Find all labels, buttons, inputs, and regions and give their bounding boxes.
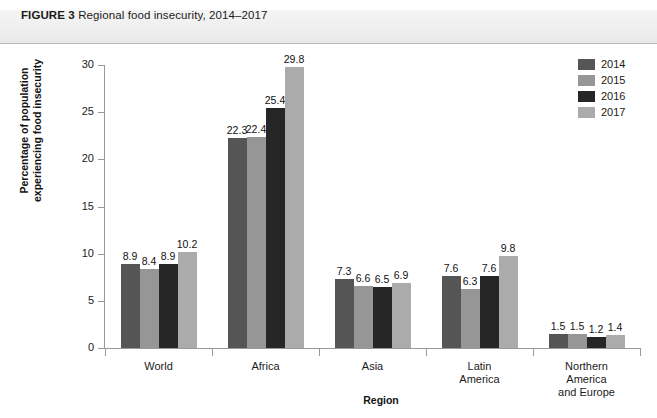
legend-item: 2017 <box>578 105 625 120</box>
x-category-label-line: Africa <box>206 360 326 373</box>
y-axis-title-line: experiencing food insecurity <box>30 31 43 231</box>
bar <box>549 334 568 348</box>
bar <box>392 283 411 348</box>
bar <box>140 269 159 348</box>
x-tick-mark <box>533 349 534 356</box>
y-tick-label: 5 <box>68 294 94 306</box>
x-tick-mark <box>105 349 106 356</box>
bar <box>159 264 178 348</box>
legend-label: 2017 <box>601 107 625 118</box>
legend-swatch <box>578 75 595 86</box>
bar <box>266 108 285 348</box>
x-tick-mark <box>212 349 213 356</box>
x-category-label-line: Northern <box>527 360 647 373</box>
legend-item: 2016 <box>578 89 625 104</box>
bar-value-label: 7.6 <box>436 262 466 274</box>
legend-swatch <box>578 91 595 102</box>
bar <box>480 276 499 348</box>
y-tick-mark <box>98 112 104 113</box>
y-tick-label: 25 <box>68 105 94 117</box>
bar <box>354 286 373 348</box>
x-category-label-line: America <box>420 373 540 386</box>
bar <box>442 276 461 348</box>
bar-value-label: 1.4 <box>600 321 630 333</box>
bar <box>121 264 140 348</box>
y-axis-title: Percentage of populationexperiencing foo… <box>18 31 43 231</box>
x-category-label-line: World <box>99 360 219 373</box>
y-tick-label: 0 <box>68 341 94 353</box>
bar-value-label: 9.8 <box>493 242 523 254</box>
x-tick-mark <box>426 349 427 356</box>
legend-swatch <box>578 59 595 70</box>
plot-area: 8.98.48.910.222.322.425.429.87.36.66.56.… <box>105 65 640 348</box>
bar <box>461 289 480 348</box>
y-tick-label: 15 <box>68 200 94 212</box>
y-tick-mark <box>98 159 104 160</box>
legend-item: 2015 <box>578 73 625 88</box>
legend-label: 2016 <box>601 91 625 102</box>
x-tick-mark <box>640 349 641 356</box>
legend-item: 2014 <box>578 57 625 72</box>
bar <box>247 137 266 348</box>
bar <box>568 334 587 348</box>
bar <box>335 279 354 348</box>
bar <box>587 337 606 348</box>
bar <box>373 287 392 348</box>
legend-label: 2014 <box>601 59 625 70</box>
x-category-label-line: Latin <box>420 360 540 373</box>
x-tick-mark <box>319 349 320 356</box>
bar-value-label: 29.8 <box>279 53 309 65</box>
y-tick-label: 30 <box>68 58 94 70</box>
y-tick-label: 10 <box>68 247 94 259</box>
legend-swatch <box>578 107 595 118</box>
bar-chart: 051015202530 Percentage of populationexp… <box>0 0 657 418</box>
bar <box>228 138 247 348</box>
x-category-label: LatinAmerica <box>420 360 540 386</box>
x-axis-title: Region <box>0 394 657 406</box>
x-category-label-line: America <box>527 373 647 386</box>
y-tick-mark <box>98 254 104 255</box>
bar <box>606 335 625 348</box>
bar-value-label: 10.2 <box>172 238 202 250</box>
chart-legend: 2014201520162017 <box>578 57 625 121</box>
x-category-label-line: Asia <box>313 360 433 373</box>
y-tick-mark <box>98 348 104 349</box>
x-category-label: World <box>99 360 219 373</box>
x-category-label: Asia <box>313 360 433 373</box>
bar <box>499 256 518 348</box>
bar-value-label: 6.9 <box>386 269 416 281</box>
bar <box>285 67 304 348</box>
x-axis-line <box>104 348 641 349</box>
y-axis-title-line: Percentage of population <box>18 31 31 231</box>
y-tick-mark <box>98 301 104 302</box>
x-category-label: Africa <box>206 360 326 373</box>
y-tick-mark <box>98 65 104 66</box>
y-tick-mark <box>98 207 104 208</box>
y-tick-label: 20 <box>68 152 94 164</box>
legend-label: 2015 <box>601 75 625 86</box>
bar <box>178 252 197 348</box>
